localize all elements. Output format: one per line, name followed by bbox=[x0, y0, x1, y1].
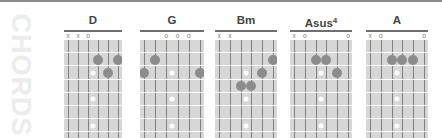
fret-line bbox=[366, 79, 428, 80]
string-line bbox=[166, 40, 167, 138]
string-line bbox=[200, 40, 201, 138]
open-mute-row: ooo bbox=[140, 32, 204, 40]
fret-line bbox=[290, 79, 352, 80]
open-marker: o bbox=[379, 32, 383, 40]
mute-marker: x bbox=[66, 32, 69, 40]
finger-position-dot bbox=[397, 55, 407, 65]
fret-line bbox=[366, 118, 428, 119]
fret-inlay-dot bbox=[91, 71, 96, 76]
fret-line bbox=[215, 131, 277, 132]
finger-position-dot bbox=[113, 55, 122, 65]
fret-inlay-dot bbox=[319, 97, 324, 102]
chord-diagram-bm: Bmxx bbox=[215, 14, 277, 138]
fret-inlay-dot bbox=[244, 71, 249, 76]
open-mute-row: xoo bbox=[366, 32, 428, 40]
chord-diagram-g: Gooo bbox=[140, 14, 204, 138]
side-label: CHORDS bbox=[5, 13, 36, 136]
finger-position-dot bbox=[387, 55, 397, 65]
string-line bbox=[294, 40, 295, 138]
fret-inlay-dot bbox=[91, 123, 96, 128]
string-line bbox=[88, 40, 89, 138]
fret-line bbox=[140, 118, 204, 119]
string-line bbox=[78, 40, 79, 138]
fret-inlay-dot bbox=[395, 123, 400, 128]
fret-line bbox=[64, 118, 122, 119]
finger-position-dot bbox=[236, 81, 246, 91]
fret-line bbox=[366, 92, 428, 93]
open-mute-row: xoo bbox=[290, 32, 352, 40]
finger-position-dot bbox=[93, 55, 103, 65]
fretboard-grid bbox=[215, 40, 277, 138]
chord-name-superscript: 4 bbox=[333, 16, 337, 25]
fret-line bbox=[215, 65, 277, 66]
finger-position-dot bbox=[246, 81, 256, 91]
string-line bbox=[337, 40, 338, 138]
fret-line bbox=[290, 118, 352, 119]
open-marker: o bbox=[303, 32, 307, 40]
fret-line bbox=[64, 92, 122, 93]
finger-position-dot bbox=[408, 55, 418, 65]
fret-line bbox=[290, 52, 352, 53]
fret-line bbox=[215, 92, 277, 93]
fret-line bbox=[290, 92, 352, 93]
chord-name-text: A bbox=[393, 14, 401, 26]
open-marker: o bbox=[422, 32, 426, 40]
finger-position-dot bbox=[103, 68, 113, 78]
fretboard-grid bbox=[366, 40, 428, 138]
top-rule bbox=[0, 0, 442, 2]
mute-marker: x bbox=[228, 32, 231, 40]
mute-marker: x bbox=[76, 32, 79, 40]
chord-name-text: G bbox=[168, 14, 177, 26]
fret-inlay-dot bbox=[170, 123, 175, 128]
fret-line bbox=[366, 105, 428, 106]
mute-marker: x bbox=[217, 32, 220, 40]
finger-position-dot bbox=[150, 55, 160, 65]
fret-inlay-dot bbox=[91, 97, 96, 102]
fret-line bbox=[290, 105, 352, 106]
open-marker: o bbox=[165, 32, 169, 40]
fret-line bbox=[290, 131, 352, 132]
open-marker: o bbox=[86, 32, 90, 40]
fretboard-grid bbox=[140, 40, 204, 138]
mute-marker: x bbox=[368, 32, 371, 40]
fretboard-grid bbox=[64, 40, 122, 138]
fret-inlay-dot bbox=[395, 71, 400, 76]
chord-name: G bbox=[140, 14, 204, 27]
chord-name-text: D bbox=[89, 14, 97, 26]
fret-line bbox=[64, 79, 122, 80]
fret-line bbox=[366, 52, 428, 53]
fret-line bbox=[64, 52, 122, 53]
fret-inlay-dot bbox=[170, 71, 175, 76]
chord-name: Bm bbox=[215, 14, 277, 27]
finger-position-dot bbox=[321, 55, 331, 65]
string-line bbox=[305, 40, 306, 138]
string-line bbox=[262, 40, 263, 138]
fret-inlay-dot bbox=[319, 71, 324, 76]
chord-name-text: Asus bbox=[305, 17, 333, 29]
fret-inlay-dot bbox=[395, 97, 400, 102]
chord-name-text: Bm bbox=[237, 14, 256, 26]
fret-line bbox=[140, 65, 204, 66]
string-line bbox=[219, 40, 220, 138]
chord-diagram-d: Dxxo bbox=[64, 14, 122, 138]
chord-name: A bbox=[366, 14, 428, 27]
fret-line bbox=[140, 105, 204, 106]
chord-name: Asus4 bbox=[290, 14, 352, 30]
open-marker: o bbox=[346, 32, 350, 40]
fret-line bbox=[140, 79, 204, 80]
fret-line bbox=[64, 131, 122, 132]
fret-line bbox=[290, 65, 352, 66]
finger-position-dot bbox=[257, 68, 267, 78]
finger-position-dot bbox=[311, 55, 321, 65]
fretboard-grid bbox=[290, 40, 352, 138]
fret-line bbox=[215, 52, 277, 53]
fret-line bbox=[140, 131, 204, 132]
open-marker: o bbox=[176, 32, 180, 40]
chord-diagram-asus4: Asus4xoo bbox=[290, 14, 352, 138]
fret-line bbox=[64, 105, 122, 106]
string-line bbox=[108, 40, 109, 138]
fret-line bbox=[215, 118, 277, 119]
string-line bbox=[230, 40, 231, 138]
fret-inlay-dot bbox=[170, 97, 175, 102]
fret-line bbox=[140, 52, 204, 53]
